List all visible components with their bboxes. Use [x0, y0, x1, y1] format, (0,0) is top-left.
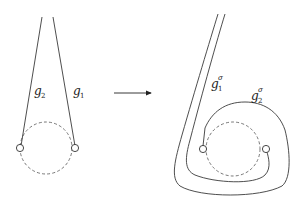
label-g2-sigma-sub: 2	[258, 97, 262, 105]
label-g1-sigma-sub: 1	[218, 85, 222, 93]
left-figure: g 2 g 1	[16, 17, 84, 174]
braid-action-diagram: g 2 g 1 g 1 σ g 2 σ	[0, 0, 300, 210]
puncture-right-right	[262, 145, 269, 152]
puncture-left-right	[199, 145, 206, 152]
curve-g1	[53, 17, 75, 146]
dashed-circle-right	[206, 122, 260, 176]
label-g2-sub: 2	[41, 92, 45, 100]
label-g1-sub: 1	[80, 92, 84, 100]
right-figure: g 1 σ g 2 σ	[174, 14, 289, 195]
label-g1-sigma-sup: σ	[218, 74, 223, 82]
puncture-left	[16, 144, 23, 151]
puncture-right	[71, 144, 78, 151]
label-g2-sigma-sup: σ	[258, 86, 263, 94]
dashed-circle	[20, 122, 72, 174]
curve-g1-sigma	[174, 14, 289, 195]
